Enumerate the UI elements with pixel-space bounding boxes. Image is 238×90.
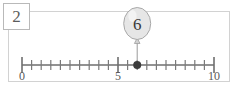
number-line-chart: 0 5 10 6 xyxy=(0,0,238,90)
tick-label-0: 0 xyxy=(19,69,25,83)
problem-number-tag: 2 xyxy=(3,3,30,30)
tick-label-5: 5 xyxy=(115,69,121,83)
problem-number-label: 2 xyxy=(12,8,21,26)
tick-label-10: 10 xyxy=(208,69,220,83)
marker-dot[interactable] xyxy=(133,61,141,69)
widget-root: 2 0 5 10 xyxy=(0,0,238,90)
balloon-value-label: 6 xyxy=(133,15,142,34)
